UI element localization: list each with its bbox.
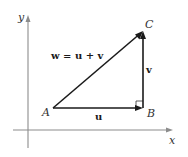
vector-w <box>53 31 143 108</box>
y-axis <box>26 15 31 148</box>
x-axis-label: x <box>169 134 176 147</box>
x-axis <box>13 128 173 133</box>
equation-label: w = u + v <box>50 50 105 61</box>
point-a-label: A <box>41 106 50 119</box>
x-axis-arrow-icon <box>166 128 173 133</box>
vector-diagram: y x A B C u v w = u + v <box>0 0 188 157</box>
y-axis-label: y <box>17 11 25 24</box>
point-c-label: C <box>145 18 154 31</box>
vector-u-label: u <box>95 111 102 122</box>
vector-u-arrowhead-icon <box>135 105 143 111</box>
vector-v-label: v <box>145 64 153 75</box>
y-axis-arrow-icon <box>26 15 31 22</box>
point-b-label: B <box>146 107 155 120</box>
